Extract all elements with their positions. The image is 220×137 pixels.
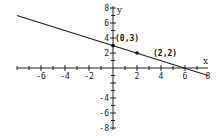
svg-text:2: 2 xyxy=(104,49,109,58)
x-tick-labels: -6 -4 -2 2 4 6 8 xyxy=(36,72,210,81)
coordinate-plane: -6 -4 -2 2 4 6 8 8 6 4 2 -4 -6 -8 y x (0… xyxy=(0,0,220,137)
point-2-2 xyxy=(135,51,139,55)
x-axis-label: x xyxy=(203,56,208,66)
point-label-2-2: (2,2) xyxy=(153,49,177,58)
svg-text:-8: -8 xyxy=(99,124,109,133)
point-0-3 xyxy=(111,44,115,48)
svg-text:-2: -2 xyxy=(84,72,94,81)
svg-text:4: 4 xyxy=(159,72,164,81)
svg-text:-6: -6 xyxy=(99,109,109,118)
svg-text:8: 8 xyxy=(104,4,109,13)
point-label-0-3: (0,3) xyxy=(115,34,139,43)
svg-text:6: 6 xyxy=(183,72,188,81)
svg-text:8: 8 xyxy=(206,72,211,81)
svg-text:-4: -4 xyxy=(60,72,70,81)
svg-text:-6: -6 xyxy=(36,72,46,81)
y-axis-label: y xyxy=(116,5,123,15)
svg-text:4: 4 xyxy=(104,34,109,43)
svg-text:2: 2 xyxy=(135,72,140,81)
svg-text:6: 6 xyxy=(104,19,109,28)
svg-text:-4: -4 xyxy=(99,94,109,103)
